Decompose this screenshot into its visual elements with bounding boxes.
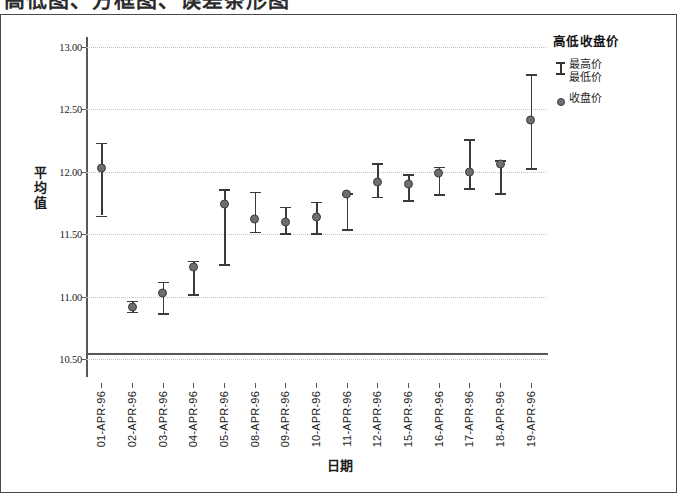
x-tick-label: 18-APR-96 [494, 391, 506, 447]
low-cap [127, 312, 138, 314]
x-tick-mark [316, 383, 317, 388]
gridline [86, 297, 546, 298]
y-tick-mark [81, 297, 86, 298]
close-marker [373, 177, 382, 186]
close-marker [97, 163, 106, 172]
x-tick-mark [500, 383, 501, 388]
close-marker [404, 180, 413, 189]
low-cap [188, 294, 199, 296]
x-tick-label: 04-APR-96 [187, 391, 199, 447]
low-cap [158, 313, 169, 315]
x-tick-mark [163, 383, 164, 388]
x-tick-label: 08-APR-96 [249, 391, 261, 447]
legend-title: 高低收盘价 [553, 31, 671, 50]
close-marker [250, 215, 259, 224]
high-cap [311, 202, 322, 204]
x-tick-label: 01-APR-96 [95, 391, 107, 447]
x-tick-mark [285, 383, 286, 388]
x-tick-label: 12-APR-96 [371, 391, 383, 447]
x-tick-mark [101, 383, 102, 388]
gridline [86, 359, 546, 360]
legend-entry-label: 最高价最低价 [569, 59, 602, 84]
dot-icon [553, 93, 569, 113]
high-cap [250, 192, 261, 194]
x-tick-mark [469, 383, 470, 388]
x-tick-mark [439, 383, 440, 388]
low-cap [372, 197, 383, 199]
legend: 高低收盘价 最高价最低价收盘价 [553, 31, 671, 113]
legend-entry: 收盘价 [553, 93, 671, 113]
y-tick-mark [81, 234, 86, 235]
x-tick-mark [408, 383, 409, 388]
clipped-heading-text: 高低图、方框图、误差条形图 [4, 0, 290, 13]
x-tick-mark [347, 383, 348, 388]
close-marker [526, 116, 535, 125]
y-tick-label: 10.50 [48, 354, 82, 365]
x-tick-label: 11-APR-96 [341, 391, 353, 446]
x-tick-label: 16-APR-96 [433, 391, 445, 447]
y-tick-mark [81, 109, 86, 110]
y-axis-title: 平均值 [29, 165, 51, 210]
low-cap [464, 188, 475, 190]
high-cap [280, 207, 291, 209]
high-cap [219, 189, 230, 191]
x-tick-mark [132, 383, 133, 388]
y-tick-label: 13.00 [48, 41, 82, 52]
x-tick-label: 19-APR-96 [525, 391, 537, 447]
gridline [86, 109, 546, 110]
x-tick-label: 05-APR-96 [218, 391, 230, 447]
y-tick-mark [81, 172, 86, 173]
range-whisker [469, 139, 471, 188]
low-cap [250, 232, 261, 234]
high-cap [526, 74, 537, 76]
plot-area: 10.5011.0011.5012.0012.5013.00 01-APR-96… [86, 39, 546, 377]
low-cap [96, 216, 107, 218]
close-marker [281, 217, 290, 226]
low-cap [280, 233, 291, 235]
high-cap [464, 139, 475, 141]
close-marker [128, 302, 137, 311]
range-whisker [101, 143, 103, 216]
close-marker [158, 289, 167, 298]
i-bar-icon [553, 59, 569, 79]
range-whisker [255, 192, 257, 232]
y-tick-label: 11.00 [48, 291, 82, 302]
x-tick-label: 02-APR-96 [126, 391, 138, 447]
low-cap [495, 193, 506, 195]
close-marker [496, 160, 505, 169]
y-tick-mark [81, 47, 86, 48]
high-cap [158, 282, 169, 284]
x-tick-label: 15-APR-96 [402, 391, 414, 447]
close-marker [342, 190, 351, 199]
y-tick-label: 12.50 [48, 104, 82, 115]
legend-entry-label: 收盘价 [569, 93, 602, 106]
x-tick-label: 09-APR-96 [279, 391, 291, 447]
close-marker [220, 200, 229, 209]
legend-entries: 最高价最低价收盘价 [553, 59, 671, 113]
x-tick-label: 10-APR-96 [310, 391, 322, 447]
x-tick-mark [193, 383, 194, 388]
x-axis-title: 日期 [1, 455, 678, 474]
gridline [86, 172, 546, 173]
low-cap [219, 264, 230, 266]
low-cap [434, 194, 445, 196]
chart-figure-frame: 10.5011.0011.5012.0012.5013.00 01-APR-96… [0, 14, 677, 493]
legend-entry: 最高价最低价 [553, 59, 671, 84]
x-tick-label: 03-APR-96 [157, 391, 169, 447]
high-cap [372, 163, 383, 165]
y-tick-label: 12.00 [48, 166, 82, 177]
x-tick-label: 17-APR-96 [463, 391, 475, 447]
close-marker [434, 168, 443, 177]
x-tick-mark [377, 383, 378, 388]
high-cap [96, 143, 107, 145]
low-cap [311, 233, 322, 235]
low-cap [342, 229, 353, 231]
clipped-heading-strip: 高低图、方框图、误差条形图 [0, 0, 678, 14]
low-cap [403, 200, 414, 202]
high-cap [403, 174, 414, 176]
close-marker [312, 212, 321, 221]
y-tick-mark [81, 359, 86, 360]
low-cap [526, 168, 537, 170]
y-tick-label: 11.50 [48, 229, 82, 240]
x-tick-mark [531, 383, 532, 388]
